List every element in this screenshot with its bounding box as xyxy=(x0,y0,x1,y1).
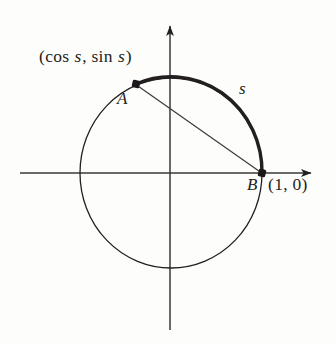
coords-open-paren: (cos xyxy=(39,46,74,66)
arc-length-label: s xyxy=(239,80,246,97)
coords-separator: , sin xyxy=(82,46,117,66)
chord-ab xyxy=(137,85,262,173)
point-a-coordinates-label: (cos s, sin s) xyxy=(39,48,132,66)
coords-variable-s-first: s xyxy=(74,46,82,66)
point-b-marker xyxy=(257,168,266,177)
unit-circle-diagram: (cos s, sin s) A B (1, 0) s xyxy=(0,0,336,344)
coords-close-paren: ) xyxy=(126,46,132,66)
point-a-marker xyxy=(131,79,140,88)
coords-variable-s-second: s xyxy=(118,46,126,66)
point-a-label: A xyxy=(117,90,127,107)
point-b-coordinates-label: (1, 0) xyxy=(268,176,308,194)
point-b-label: B xyxy=(247,176,257,193)
